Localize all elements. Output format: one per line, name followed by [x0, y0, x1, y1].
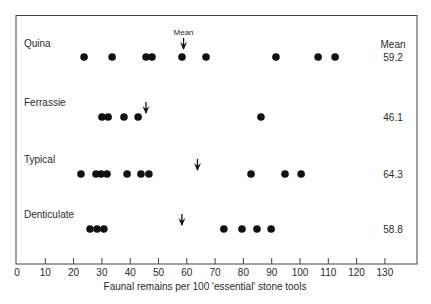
data-point	[145, 170, 153, 178]
data-point	[238, 225, 246, 233]
series-label: Ferrassie	[24, 97, 66, 108]
series-row-ferrassie: Ferrassie46.1	[24, 97, 403, 123]
x-tick-label: 60	[181, 267, 193, 278]
x-tick-label: 100	[292, 267, 309, 278]
series-label: Quina	[24, 38, 51, 49]
data-point	[104, 113, 112, 121]
data-point	[331, 53, 339, 61]
x-tick-label: 90	[266, 267, 278, 278]
data-point	[314, 53, 322, 61]
x-tick-label: 30	[96, 267, 108, 278]
series-row-typical: Typical64.3	[24, 154, 403, 180]
data-point	[134, 113, 142, 121]
mean-value: 59.2	[383, 52, 403, 63]
data-point	[178, 53, 186, 61]
series-row-denticulate: Denticulate58.8	[24, 209, 403, 235]
x-tick-label: 10	[40, 267, 52, 278]
data-point	[281, 170, 289, 178]
data-point	[267, 225, 275, 233]
data-point	[120, 113, 128, 121]
data-point	[220, 225, 228, 233]
x-tick-label: 0	[14, 267, 20, 278]
x-axis-tick-labels: 0102030405060708090100110120130	[14, 267, 393, 278]
data-point	[108, 53, 116, 61]
data-point	[86, 225, 94, 233]
x-tick-label: 50	[153, 267, 165, 278]
x-tick-label: 40	[125, 267, 137, 278]
data-point	[80, 53, 88, 61]
data-point	[100, 225, 108, 233]
data-point	[257, 113, 265, 121]
mean-arrow-icon	[180, 38, 187, 50]
mean-arrow-icon	[142, 102, 149, 114]
x-tick-label: 70	[210, 267, 222, 278]
data-point	[148, 53, 156, 61]
x-tick-label: 110	[320, 267, 336, 278]
data-point	[123, 170, 131, 178]
data-point	[137, 170, 145, 178]
data-point	[272, 53, 280, 61]
data-point	[77, 170, 85, 178]
x-tick-label: 80	[238, 267, 250, 278]
mean-value: 58.8	[383, 224, 403, 235]
x-tick-label: 20	[68, 267, 80, 278]
mean-arrow-icon	[194, 159, 201, 171]
x-axis-ticks	[45, 258, 385, 264]
data-point	[93, 225, 101, 233]
series-label: Typical	[24, 154, 55, 165]
data-point	[247, 170, 255, 178]
dot-plot-chart: 0102030405060708090100110120130 Faunal r…	[0, 0, 431, 304]
x-tick-label: 130	[377, 267, 394, 278]
x-axis-label: Faunal remains per 100 'essential' stone…	[104, 281, 307, 292]
series-label: Denticulate	[24, 209, 74, 220]
mean-value: 64.3	[383, 169, 403, 180]
plot-frame	[16, 16, 417, 265]
x-tick-label: 120	[348, 267, 365, 278]
data-point	[103, 170, 111, 178]
series-rows: QuinaMean59.2Ferrassie46.1Typical64.3Den…	[24, 28, 403, 235]
mean-value: 46.1	[383, 112, 403, 123]
data-point	[253, 225, 261, 233]
mean-arrow-label: Mean	[174, 28, 194, 37]
data-point	[202, 53, 210, 61]
data-point	[297, 170, 305, 178]
series-row-quina: QuinaMean59.2	[24, 28, 403, 63]
mean-column-header: Mean	[380, 39, 405, 50]
mean-arrow-icon	[178, 214, 185, 226]
